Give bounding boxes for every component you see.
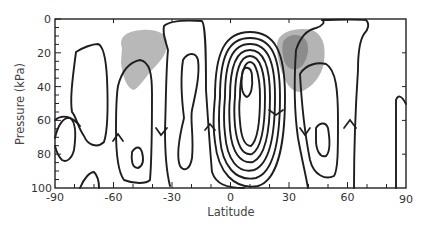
x-tick-label: -60 <box>105 191 123 204</box>
y-tick-labels: 0 20 40 60 80 100 <box>31 13 52 195</box>
x-tick-label: 0 <box>227 191 234 204</box>
x-tick-label: 90 <box>399 193 413 206</box>
central-cell-contours <box>213 32 285 187</box>
contour-tall-60 <box>322 20 368 188</box>
contour-cell-minus70 <box>71 44 107 145</box>
x-tick-label: -30 <box>163 191 181 204</box>
y-tick-label: 60 <box>37 114 51 127</box>
arrow-down-25 <box>269 110 283 115</box>
contour-bottom-lobe <box>80 172 99 188</box>
y-tick-label: 0 <box>44 13 51 26</box>
contour-right-edge <box>396 97 406 188</box>
shaded-region-south <box>121 30 167 90</box>
streamfunction-diagram: 0 20 40 60 80 100 -90 -60 -30 0 30 60 90… <box>0 0 422 231</box>
x-tick-labels: -90 -60 -30 0 30 60 90 <box>46 191 413 206</box>
x-tick-label: 30 <box>282 191 296 204</box>
x-axis-title: Latitude <box>207 205 254 219</box>
arrow-up-minus50 <box>113 134 123 141</box>
central-contour-7 <box>242 68 253 97</box>
contour-cell-40-inner <box>316 124 329 157</box>
y-tick-label: 40 <box>37 81 51 94</box>
arrow-up-63 <box>344 120 356 128</box>
y-axis-title: Pressure (kPa) <box>13 63 27 145</box>
x-tick-label: -90 <box>46 191 64 204</box>
y-tick-label: 80 <box>37 148 51 161</box>
y-tick-label: 20 <box>37 47 51 60</box>
contour-cell-minus20 <box>178 54 198 169</box>
x-tick-label: 60 <box>341 191 355 204</box>
contour-cell-minus45-inner <box>132 148 143 169</box>
